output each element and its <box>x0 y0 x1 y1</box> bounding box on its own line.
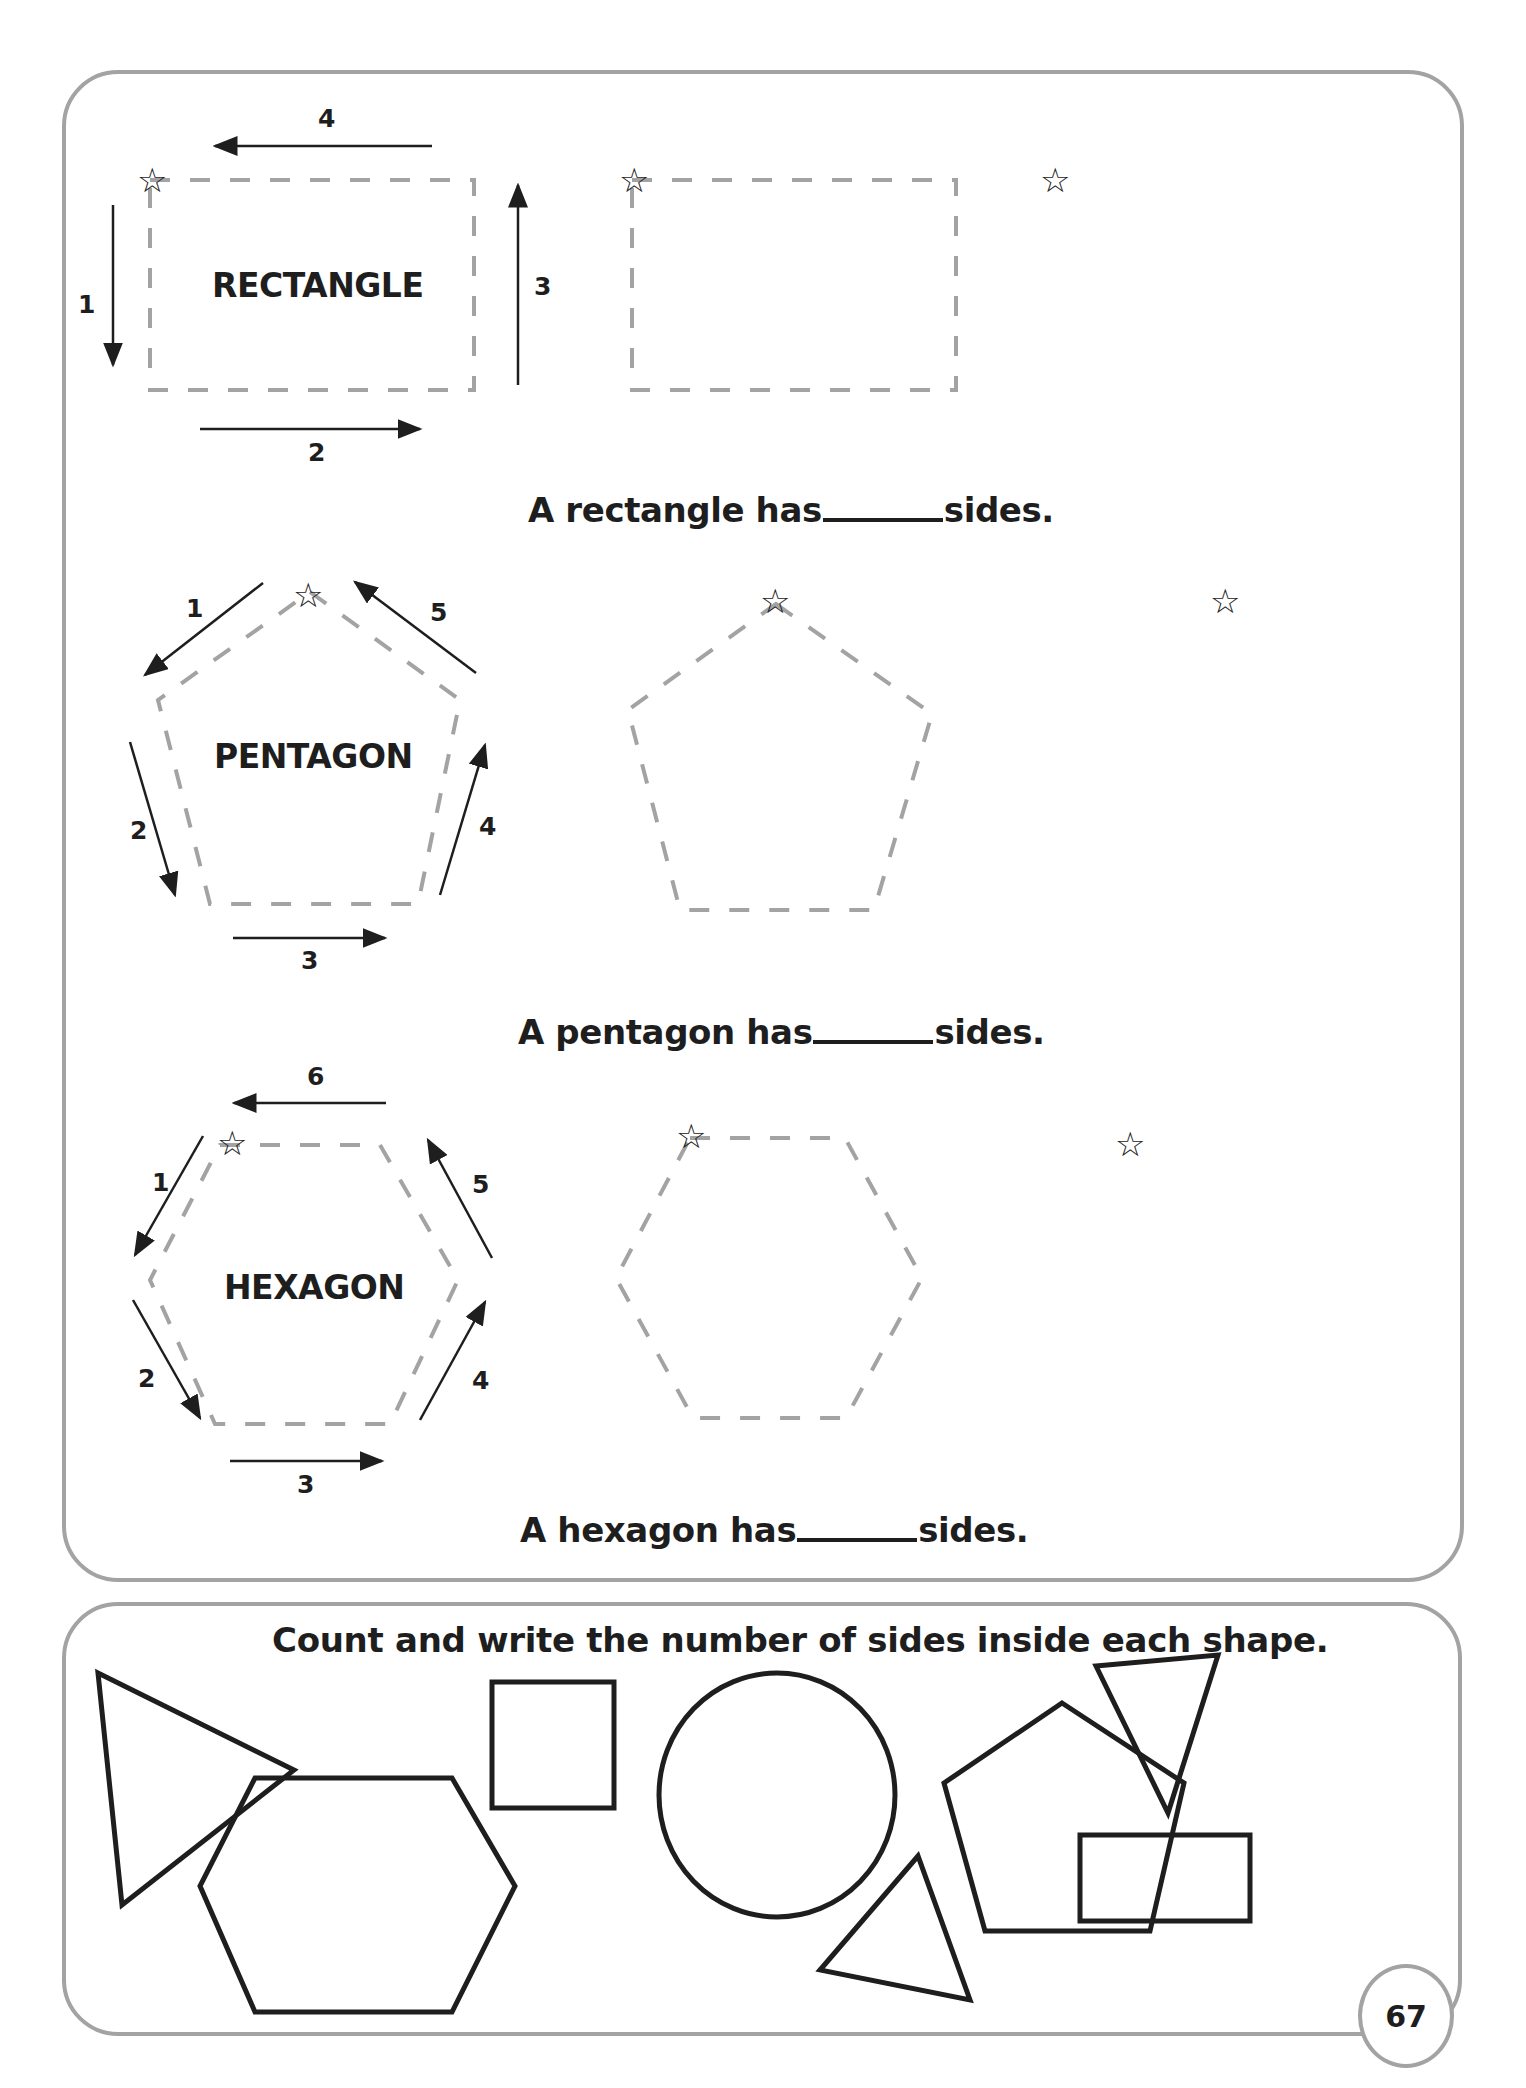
side-number: 4 <box>472 1366 489 1395</box>
sentence-pentagon-sides: A pentagon hassides. <box>518 1012 1045 1052</box>
arrow-side-1 <box>145 583 263 675</box>
count-shape-triangle-3[interactable] <box>1096 1655 1218 1813</box>
side-number: 4 <box>318 104 335 133</box>
count-shape-circle[interactable] <box>659 1673 895 1917</box>
sentence-text: sides. <box>934 1012 1044 1052</box>
arrow-side-4 <box>420 1302 485 1420</box>
start-star-icon: ☆ <box>1115 1127 1145 1161</box>
count-shape-rectangle[interactable] <box>1080 1835 1250 1921</box>
start-star-icon: ☆ <box>137 163 167 197</box>
start-star-icon: ☆ <box>293 578 323 612</box>
sentence-text: sides. <box>944 490 1054 530</box>
side-number: 3 <box>301 946 318 975</box>
side-number: 5 <box>472 1170 489 1199</box>
count-shape-triangle-2[interactable] <box>820 1856 970 2000</box>
side-number: 1 <box>186 594 203 623</box>
hexagon-trace-outline[interactable] <box>616 1138 922 1418</box>
model-label-hexagon: HEXAGON <box>224 1268 404 1307</box>
side-number: 2 <box>308 438 325 467</box>
side-number: 3 <box>297 1470 314 1499</box>
count-instruction: Count and write the number of sides insi… <box>272 1620 1328 1660</box>
side-number: 4 <box>479 812 496 841</box>
start-star-icon: ☆ <box>676 1119 706 1153</box>
start-star-icon: ☆ <box>217 1126 247 1160</box>
sentence-hexagon-sides: A hexagon hassides. <box>520 1510 1028 1550</box>
count-shape-triangle-1[interactable] <box>98 1673 294 1905</box>
answer-blank[interactable] <box>823 518 943 522</box>
page-number: 67 <box>1358 1964 1454 2068</box>
side-number: 1 <box>152 1168 169 1197</box>
arrow-side-5 <box>428 1140 492 1258</box>
rectangle-trace-outline[interactable] <box>632 180 956 390</box>
side-number: 5 <box>430 598 447 627</box>
start-star-icon: ☆ <box>760 584 790 618</box>
answer-blank[interactable] <box>813 1040 933 1044</box>
side-number: 2 <box>138 1364 155 1393</box>
start-star-icon: ☆ <box>1210 584 1240 618</box>
start-star-icon: ☆ <box>1040 163 1070 197</box>
model-label-rectangle: RECTANGLE <box>212 266 423 305</box>
sentence-text: sides. <box>918 1510 1028 1550</box>
count-shape-pentagon[interactable] <box>944 1703 1184 1931</box>
sentence-text: A hexagon has <box>520 1510 796 1550</box>
sentence-text: A pentagon has <box>518 1012 812 1052</box>
count-shape-hexagon[interactable] <box>200 1778 515 2012</box>
side-number: 2 <box>130 816 147 845</box>
start-star-icon: ☆ <box>619 163 649 197</box>
sentence-rectangle-sides: A rectangle hassides. <box>528 490 1054 530</box>
arrow-side-5 <box>355 582 476 673</box>
side-number: 3 <box>534 272 551 301</box>
model-label-pentagon: PENTAGON <box>214 737 413 776</box>
side-number: 6 <box>307 1062 324 1091</box>
answer-blank[interactable] <box>797 1538 917 1542</box>
pentagon-trace-outline[interactable] <box>628 604 932 910</box>
side-number: 1 <box>78 290 95 319</box>
count-shape-square[interactable] <box>492 1682 614 1808</box>
sentence-text: A rectangle has <box>528 490 822 530</box>
